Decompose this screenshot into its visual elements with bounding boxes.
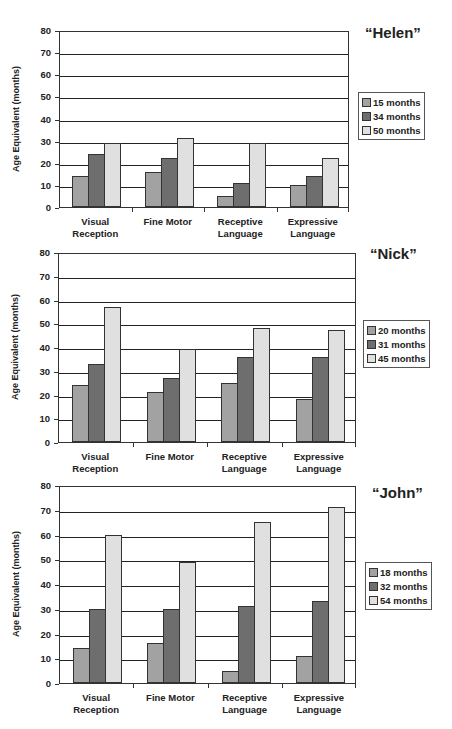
- bar-expressive-language-34-months: [306, 176, 323, 207]
- gridline: [59, 302, 355, 303]
- y-tick-label: 0: [29, 202, 51, 213]
- x-category-label: ExpressiveLanguage: [279, 692, 359, 716]
- y-tick-label: 30: [29, 136, 51, 147]
- y-tick-mark: [55, 585, 59, 586]
- bar-receptive-language-20-months: [221, 383, 238, 442]
- gridline: [60, 121, 348, 122]
- bar-receptive-language-15-months: [217, 196, 234, 207]
- x-tick-mark: [133, 684, 134, 688]
- bar-fine-motor-45-months: [179, 349, 196, 442]
- x-category-label: ReceptiveLanguage: [204, 451, 284, 475]
- y-tick-mark: [54, 396, 58, 397]
- x-label-line: Visual: [56, 692, 136, 704]
- legend-label: 15 months: [373, 97, 421, 108]
- x-label-line: Language: [279, 463, 359, 475]
- bar-visual-reception-50-months: [104, 143, 121, 207]
- gridline: [59, 278, 355, 279]
- y-tick-label: 30: [28, 366, 50, 377]
- y-tick-label: 20: [29, 158, 51, 169]
- bar-visual-reception-15-months: [72, 176, 89, 207]
- chart-title: “John”: [372, 484, 423, 501]
- x-label-line: Receptive: [200, 216, 280, 228]
- bar-receptive-language-32-months: [238, 606, 255, 683]
- y-tick-label: 80: [28, 247, 50, 258]
- chart-title: “Helen”: [365, 24, 421, 41]
- x-category-label: VisualReception: [55, 451, 135, 475]
- x-tick-mark: [207, 443, 208, 447]
- y-tick-label: 20: [29, 629, 51, 640]
- x-label-line: Reception: [56, 704, 136, 716]
- x-category-label: Fine Motor: [130, 451, 210, 463]
- bar-expressive-language-32-months: [312, 601, 329, 683]
- x-label-line: Language: [205, 704, 285, 716]
- legend-swatch-icon: [362, 98, 371, 107]
- bar-expressive-language-50-months: [322, 158, 339, 207]
- y-tick-label: 80: [29, 480, 51, 491]
- x-tick-mark: [355, 443, 356, 447]
- gridline: [60, 98, 348, 99]
- legend-swatch-icon: [369, 596, 378, 605]
- y-tick-mark: [55, 659, 59, 660]
- y-tick-mark: [55, 97, 59, 98]
- y-tick-mark: [55, 610, 59, 611]
- y-tick-label: 60: [29, 530, 51, 541]
- y-tick-mark: [54, 443, 58, 444]
- x-label-line: Visual: [55, 451, 135, 463]
- x-tick-mark: [208, 684, 209, 688]
- bar-visual-reception-34-months: [88, 154, 105, 207]
- bar-expressive-language-31-months: [312, 357, 329, 443]
- x-category-label: ReceptiveLanguage: [200, 216, 280, 240]
- x-label-line: Language: [279, 704, 359, 716]
- x-label-line: Receptive: [205, 692, 285, 704]
- x-label-line: Visual: [55, 216, 135, 228]
- plot-area: [59, 486, 356, 684]
- y-tick-mark: [55, 53, 59, 54]
- legend-item: 31 months: [367, 337, 426, 351]
- y-tick-label: 30: [29, 604, 51, 615]
- x-tick-mark: [282, 443, 283, 447]
- gridline: [60, 54, 348, 55]
- bar-fine-motor-32-months: [163, 609, 180, 683]
- bar-expressive-language-45-months: [328, 330, 345, 442]
- y-tick-mark: [55, 511, 59, 512]
- y-tick-mark: [55, 536, 59, 537]
- legend-item: 20 months: [367, 323, 426, 337]
- bar-visual-reception-54-months: [105, 535, 122, 684]
- y-tick-label: 70: [29, 505, 51, 516]
- y-tick-mark: [54, 372, 58, 373]
- legend-swatch-icon: [367, 326, 376, 335]
- legend-label: 18 months: [380, 567, 428, 578]
- y-tick-label: 60: [28, 295, 50, 306]
- x-label-line: Reception: [55, 228, 135, 240]
- y-tick-label: 10: [28, 413, 50, 424]
- gridline: [60, 76, 348, 77]
- y-tick-label: 40: [29, 114, 51, 125]
- x-label-line: Expressive: [279, 451, 359, 463]
- legend-item: 45 months: [367, 351, 426, 365]
- x-tick-mark: [204, 208, 205, 212]
- gridline: [60, 143, 348, 144]
- x-tick-mark: [133, 443, 134, 447]
- x-label-line: Receptive: [204, 451, 284, 463]
- x-label-line: Expressive: [273, 216, 353, 228]
- y-tick-mark: [54, 419, 58, 420]
- legend-label: 50 months: [373, 125, 421, 136]
- y-tick-label: 0: [28, 437, 50, 448]
- gridline: [60, 512, 355, 513]
- bar-receptive-language-54-months: [254, 522, 271, 683]
- y-tick-mark: [54, 348, 58, 349]
- x-label-line: Fine Motor: [128, 216, 208, 228]
- y-tick-mark: [54, 301, 58, 302]
- bar-fine-motor-34-months: [161, 158, 178, 207]
- legend-swatch-icon: [367, 354, 376, 363]
- x-label-line: Fine Motor: [130, 692, 210, 704]
- y-tick-label: 80: [29, 25, 51, 36]
- y-tick-label: 60: [29, 69, 51, 80]
- x-tick-mark: [277, 208, 278, 212]
- bar-expressive-language-18-months: [296, 656, 313, 683]
- legend-item: 18 months: [369, 565, 428, 579]
- chart-title: “Nick”: [370, 245, 417, 262]
- legend-item: 32 months: [369, 579, 428, 593]
- y-tick-label: 70: [28, 271, 50, 282]
- x-label-line: Language: [200, 228, 280, 240]
